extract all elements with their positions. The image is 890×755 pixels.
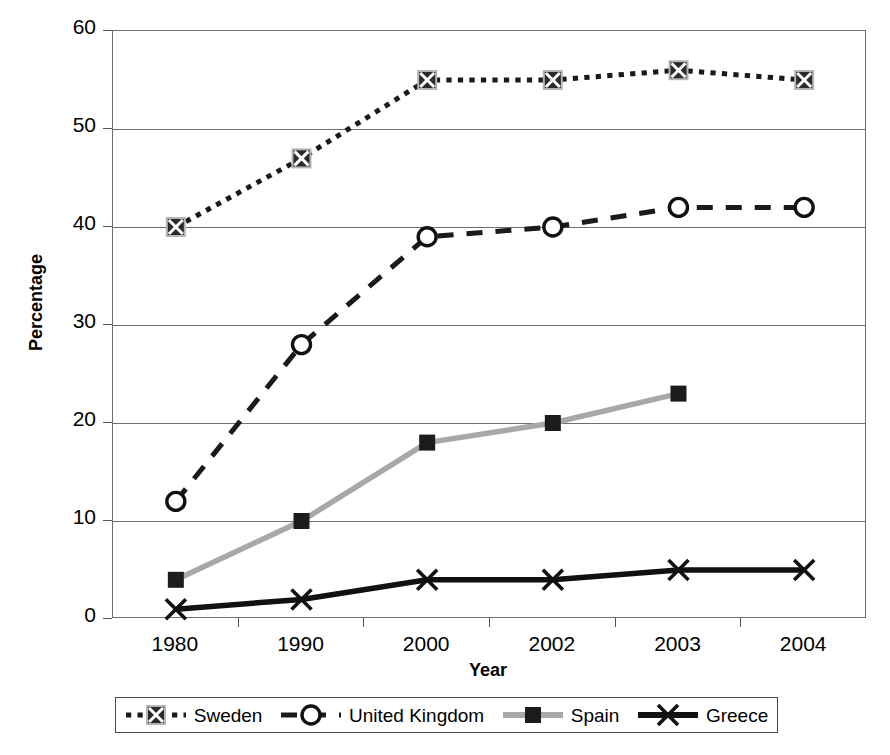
- data-point-open-circle: [167, 492, 185, 510]
- data-point-filled-square: [168, 572, 184, 588]
- x-axis-tick-label: 1990: [246, 632, 356, 656]
- x-axis-tick-label: 1980: [120, 632, 230, 656]
- data-point-open-circle: [544, 218, 562, 236]
- data-point-open-circle: [293, 336, 311, 354]
- legend-label: Spain: [571, 706, 620, 725]
- x-axis-tick-mark: [489, 618, 490, 627]
- y-axis-tick-mark: [103, 422, 112, 423]
- y-axis-tick-mark: [103, 324, 112, 325]
- data-point-filled-square: [525, 707, 541, 723]
- x-axis-tick-label: 2004: [748, 632, 858, 656]
- data-point-filled-square: [294, 513, 310, 529]
- y-axis-tick-label: 0: [36, 603, 96, 627]
- legend-item-sweden[interactable]: Sweden: [123, 704, 265, 726]
- legend-swatch-greece: [637, 704, 699, 726]
- data-point-open-circle: [302, 706, 320, 724]
- x-axis-tick-mark: [238, 618, 239, 627]
- x-axis-tick-label: 2002: [497, 632, 607, 656]
- x-axis-tick-mark: [615, 618, 616, 627]
- legend-item-greece[interactable]: Greece: [635, 704, 770, 726]
- y-axis-tick-mark: [103, 226, 112, 227]
- data-point-filled-square: [419, 435, 435, 451]
- y-axis-tick-label: 60: [36, 15, 96, 39]
- x-axis-tick-mark: [740, 618, 741, 627]
- legend-label: United Kingdom: [349, 706, 484, 725]
- data-point-crossed-square: [670, 61, 688, 79]
- legend-item-united-kingdom[interactable]: United Kingdom: [278, 704, 486, 726]
- data-point-crossed-square: [544, 71, 562, 89]
- data-point-open-circle: [670, 198, 688, 216]
- legend-item-spain[interactable]: Spain: [500, 704, 622, 726]
- x-axis-tick-label: 2003: [623, 632, 733, 656]
- legend-swatch-united-kingdom: [280, 704, 342, 726]
- data-point-crossed-square: [147, 706, 165, 724]
- x-axis-tick-label: 2000: [371, 632, 481, 656]
- y-axis-tick-label: 20: [36, 407, 96, 431]
- data-point-filled-square: [545, 415, 561, 431]
- y-axis-tick-mark: [103, 520, 112, 521]
- y-axis-tick-label: 30: [36, 309, 96, 333]
- x-axis-title: Year: [110, 660, 866, 681]
- x-axis-tick-mark: [363, 618, 364, 627]
- y-axis-tick-mark: [103, 128, 112, 129]
- series-layer: [113, 31, 867, 619]
- legend-swatch-spain: [502, 704, 564, 726]
- series-line-united-kingdom: [176, 207, 804, 501]
- y-axis-title: Percentage: [26, 233, 47, 373]
- series-line-greece: [176, 570, 804, 609]
- line-chart: Percentage 0102030405060 198019902000200…: [0, 0, 890, 755]
- chart-legend: SwedenUnited KingdomSpainGreece: [115, 697, 778, 733]
- legend-label: Greece: [706, 706, 768, 725]
- y-axis-tick-label: 50: [36, 113, 96, 137]
- data-point-crossed-square: [167, 218, 185, 236]
- y-axis-tick-label: 10: [36, 505, 96, 529]
- data-point-crossed-square: [418, 71, 436, 89]
- data-point-open-circle: [795, 198, 813, 216]
- series-line-spain: [176, 394, 679, 580]
- legend-swatch-sweden: [125, 704, 187, 726]
- legend-label: Sweden: [194, 706, 263, 725]
- data-point-filled-square: [671, 386, 687, 402]
- data-point-crossed-square: [293, 149, 311, 167]
- plot-area: [112, 30, 866, 618]
- data-point-crossed-square: [795, 71, 813, 89]
- y-axis-tick-mark: [103, 30, 112, 31]
- series-line-sweden: [176, 70, 804, 227]
- y-axis-tick-label: 40: [36, 211, 96, 235]
- y-axis-tick-mark: [103, 618, 112, 619]
- data-point-open-circle: [418, 228, 436, 246]
